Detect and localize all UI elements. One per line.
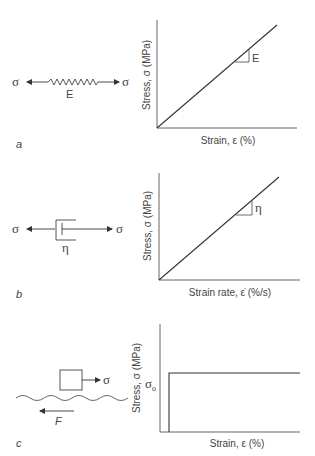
y-axis-label: Stress, σ (MPa) xyxy=(142,191,153,261)
spring-model: σ σ E xyxy=(12,74,129,100)
x-axis-label: Strain, ε (%) xyxy=(210,438,264,449)
sigma-force-label: σ xyxy=(103,372,110,387)
panel-letter-a: a xyxy=(16,138,22,150)
stress-strain-plot-c: σo Strain, ε (%) Stress, σ (MPa) xyxy=(131,324,300,449)
elastic-line xyxy=(157,25,277,128)
rigid-plastic-line xyxy=(169,373,300,432)
spring-icon xyxy=(48,79,98,85)
friction-label: F xyxy=(55,415,63,427)
viscous-line xyxy=(159,177,279,280)
dashpot-cylinder-icon xyxy=(56,220,76,240)
panel-b: σ σ η b η Strain rate, ε̇ (%/s) Stress, … xyxy=(12,173,300,300)
rheology-figure: σ σ E a E Strain, ε (%) Stress, σ (MPa) … xyxy=(0,0,315,456)
panel-letter-b: b xyxy=(16,288,22,300)
panel-a: σ σ E a E Strain, ε (%) Stress, σ (MPa) xyxy=(12,20,297,150)
slope-label: η xyxy=(255,200,262,215)
y-axis-label: Stress, σ (MPa) xyxy=(141,40,152,110)
block-icon xyxy=(60,370,82,390)
sigma-right-label: σ xyxy=(122,74,129,89)
panel-c: σ F c σo Strain, ε (%) Stress, σ (MPa) xyxy=(16,324,300,449)
friction-block-model: σ F xyxy=(16,370,128,427)
stress-strainrate-plot-b: η Strain rate, ε̇ (%/s) Stress, σ (MPa) xyxy=(142,173,300,298)
stress-strain-plot-a: E Strain, ε (%) Stress, σ (MPa) xyxy=(141,20,297,146)
slope-triangle xyxy=(235,50,249,62)
viscosity-label: η xyxy=(62,240,69,255)
x-axis-label: Strain rate, ε̇ (%/s) xyxy=(189,287,271,298)
panel-letter-c: c xyxy=(16,437,22,449)
y-axis-label: Stress, σ (MPa) xyxy=(131,343,142,413)
spring-modulus-label: E xyxy=(66,88,73,100)
sigma-left-label: σ xyxy=(12,221,19,236)
yield-stress-label: σo xyxy=(145,376,156,393)
dashpot-model: σ σ η xyxy=(12,220,123,255)
slope-triangle xyxy=(236,201,252,215)
friction-surface-icon xyxy=(16,396,128,401)
sigma-right-label: σ xyxy=(116,221,123,236)
slope-label: E xyxy=(252,52,259,64)
sigma-left-label: σ xyxy=(12,74,19,89)
x-axis-label: Strain, ε (%) xyxy=(201,135,255,146)
